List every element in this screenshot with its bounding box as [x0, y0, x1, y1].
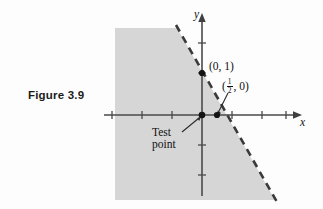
test-point-label-line1: Test [152, 126, 171, 138]
y-intercept-label: (0, 1) [209, 60, 234, 72]
test-point-label: Test point [152, 126, 176, 150]
origin-test-point-dot [199, 112, 206, 119]
x-intercept-paren-open: ( [222, 80, 226, 92]
x-intercept-suffix: , 0) [234, 80, 249, 92]
x-axis-label: x [300, 116, 305, 128]
fraction-denominator: 2 [227, 87, 233, 95]
y-axis-label: y [194, 8, 199, 20]
one-half-fraction: 1 2 [227, 78, 233, 95]
figure-container: Figure 3.9 [0, 0, 323, 209]
test-point-label-line2: point [152, 138, 176, 150]
y-intercept-dot [199, 70, 205, 76]
x-intercept-dot [214, 112, 220, 118]
coordinate-plane-plot [0, 0, 323, 209]
shaded-solution-region [115, 28, 275, 200]
x-intercept-label: ( 1 2 , 0) [222, 78, 249, 95]
